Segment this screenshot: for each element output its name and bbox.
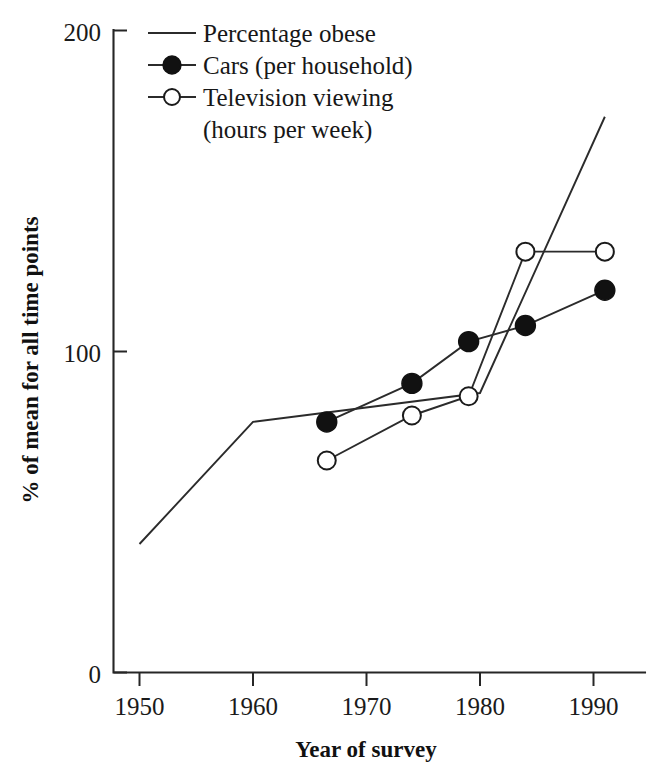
data-point-filled xyxy=(595,280,615,300)
y-tick-label-200: 200 xyxy=(64,19,102,46)
x-tick-label-1960: 1960 xyxy=(228,693,278,720)
x-tick-label-1970: 1970 xyxy=(342,693,392,720)
legend-label-television: Television viewing xyxy=(203,84,394,111)
legend-label-cars: Cars (per household) xyxy=(203,52,413,80)
y-tick-label-0: 0 xyxy=(89,661,102,688)
data-point-filled xyxy=(459,332,479,352)
data-point-filled xyxy=(402,373,422,393)
x-axis-title: Year of survey xyxy=(295,737,437,762)
open-circle-icon xyxy=(164,89,180,105)
x-tick-label-1950: 1950 xyxy=(115,693,165,720)
y-axis-title: % of mean for all time points xyxy=(18,216,43,503)
line-chart: 200 100 0 1950 1960 1970 1980 1990 Year … xyxy=(0,0,657,771)
data-point-open xyxy=(403,407,421,425)
data-point-filled xyxy=(317,412,337,432)
legend-label-percentage-obese: Percentage obese xyxy=(203,20,376,47)
data-point-filled xyxy=(515,316,535,336)
x-tick-label-1980: 1980 xyxy=(455,693,505,720)
data-point-open xyxy=(596,243,614,261)
legend-label-television-units: (hours per week) xyxy=(203,116,372,144)
data-point-open xyxy=(460,387,478,405)
figure-container: 200 100 0 1950 1960 1970 1980 1990 Year … xyxy=(0,0,657,771)
y-tick-label-100: 100 xyxy=(64,340,102,367)
data-point-open xyxy=(318,451,336,469)
filled-circle-icon xyxy=(163,56,181,74)
x-tick-label-1990: 1990 xyxy=(569,693,619,720)
data-point-open xyxy=(516,243,534,261)
